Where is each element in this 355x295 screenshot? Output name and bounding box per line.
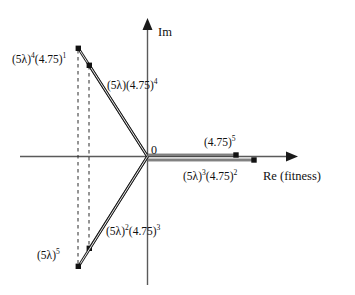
vector-endpoint-marker	[87, 63, 92, 68]
label-exp-a: 5	[56, 247, 60, 256]
label-base-b: (4.75)	[129, 225, 157, 237]
dashed-projection-group	[78, 50, 89, 266]
complex-plane-diagram: Im Re (fitness) 0 (5λ)4(4.75)1 (5λ)(4.75…	[0, 0, 355, 295]
vector-5lambda5	[76, 157, 148, 270]
vector-group	[76, 46, 257, 269]
label-base-a: (5λ)	[183, 170, 202, 182]
vector-label-5lambda-475-4: (5λ)(4.75)4	[107, 80, 158, 92]
vector-label-5lambda2-475-3: (5λ)2(4.75)3	[106, 226, 160, 238]
origin-label: 0	[151, 144, 157, 156]
imaginary-axis-arrowhead	[143, 18, 153, 30]
vector-label-475-5: (4.75)5	[204, 137, 236, 149]
label-base-b: (4.75)	[126, 79, 154, 91]
label-base-b: (4.75)	[206, 170, 234, 182]
vector-endpoint-marker	[251, 157, 256, 162]
label-base-a: (5λ)	[37, 249, 56, 261]
vector-label-5lambda3-475-2: (5λ)3(4.75)2	[183, 171, 237, 183]
imaginary-axis-label: Im	[158, 26, 172, 39]
vector-label-5lambda5: (5λ)5	[37, 250, 60, 262]
label-base-a: (5λ)	[12, 53, 31, 65]
vector-endpoint-marker	[233, 152, 238, 157]
real-axis-arrowhead	[286, 152, 298, 162]
label-base-a: (5λ)	[106, 225, 125, 237]
vector-endpoint-marker	[76, 46, 81, 51]
label-exp-b: 4	[154, 77, 158, 86]
vector-label-5lambda4-475-1: (5λ)4(4.75)1	[12, 54, 66, 66]
label-base-a: (5λ)	[107, 79, 126, 91]
label-base-b: (4.75)	[204, 136, 232, 148]
vector-5lambda3-475-2	[148, 157, 257, 162]
real-axis-label: Re (fitness)	[263, 170, 321, 183]
label-exp-b: 1	[63, 51, 67, 60]
label-exp-b: 3	[157, 223, 161, 232]
vector-endpoint-marker	[76, 264, 81, 269]
label-base-b: (4.75)	[35, 53, 63, 65]
label-exp-b: 5	[232, 134, 236, 143]
vector-5lambda-475-4	[87, 63, 148, 157]
label-exp-b: 2	[234, 168, 238, 177]
